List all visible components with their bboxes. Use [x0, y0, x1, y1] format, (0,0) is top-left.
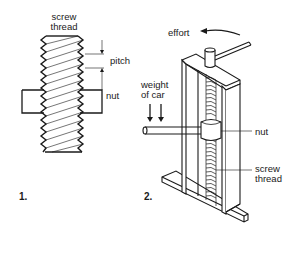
fig2-effort-label: effort: [168, 28, 189, 38]
effort-arrowhead-icon: [200, 28, 207, 34]
pitch-dimension: [85, 40, 104, 90]
figure-1-screw-and-nut: [22, 36, 104, 152]
fig1-screw-thread-label: screw thread: [44, 12, 84, 32]
fig1-nut-label: nut: [106, 91, 119, 101]
jack-lifting-arm: [145, 127, 201, 134]
effort-arrow: [205, 30, 240, 35]
fig2-weight-of-car-label: weight of car: [141, 80, 168, 100]
nut-block: [22, 90, 102, 113]
screw-thread-right-edge: [78, 36, 83, 152]
fig2-thread-label-line2: thread: [255, 174, 282, 184]
fig2-weight-label-line2: of car: [141, 90, 168, 100]
screw-thread-left-edge: [41, 36, 46, 152]
screw-thread-helix-lines: [46, 36, 83, 152]
figure-2-number: 2.: [144, 191, 152, 202]
jack-handle: [215, 42, 251, 60]
weight-arrowhead-icon: [147, 117, 153, 122]
weight-arrowhead-icon: [158, 117, 164, 122]
jack-spindle: [205, 50, 215, 68]
fig2-screw-thread-label: screw thread: [255, 164, 282, 184]
fig1-pitch-label: pitch: [110, 56, 130, 66]
fig1-thread-label-line2: thread: [44, 22, 84, 32]
figure-2-car-jack: [143, 28, 252, 222]
fig2-nut-label: nut: [255, 127, 268, 137]
jack-nut: [201, 120, 221, 141]
weight-arrows: [150, 104, 161, 118]
pitch-arrow-up-icon: [100, 68, 104, 72]
pitch-arrow-down-icon: [100, 50, 104, 54]
figure-1-number: 1.: [19, 191, 27, 202]
